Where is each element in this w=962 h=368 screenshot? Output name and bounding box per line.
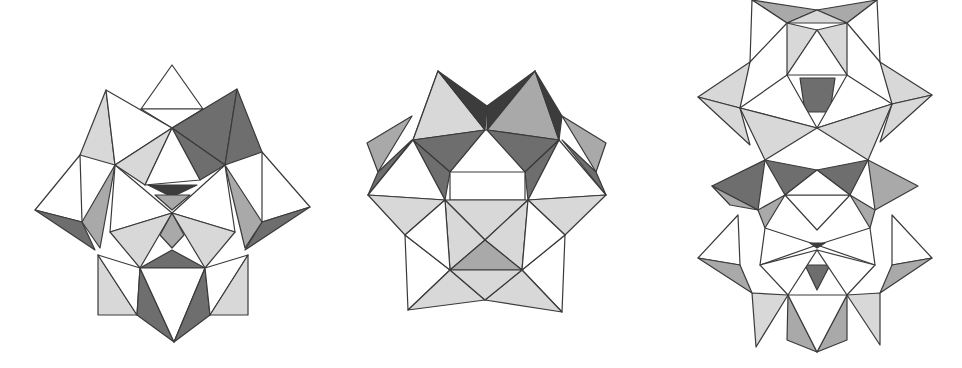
polyhedral-cluster-center <box>340 0 660 368</box>
cluster-right-drawing <box>660 0 962 368</box>
cluster-left-drawing <box>0 0 340 368</box>
polyhedral-cluster-right <box>660 0 962 368</box>
polyhedral-cluster-left <box>0 0 340 368</box>
cluster-center-drawing <box>340 0 660 368</box>
